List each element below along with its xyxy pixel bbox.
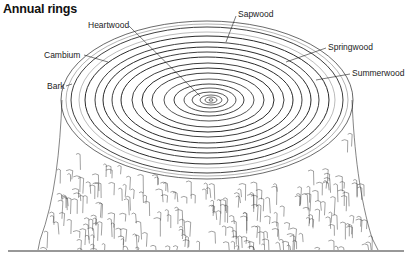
label-sapwood: Sapwood: [238, 9, 273, 19]
label-springwood: Springwood: [328, 42, 373, 52]
tree-stump-illustration: [0, 0, 407, 262]
label-cambium: Cambium: [44, 50, 80, 60]
annual-rings: [61, 21, 353, 179]
trunk-bark: [38, 100, 378, 250]
label-bark: Bark: [47, 81, 64, 91]
sapwood-leader: [226, 16, 236, 42]
label-summerwood: Summerwood: [352, 68, 404, 78]
label-heartwood: Heartwood: [88, 20, 129, 30]
cambium-leader: [84, 55, 108, 62]
